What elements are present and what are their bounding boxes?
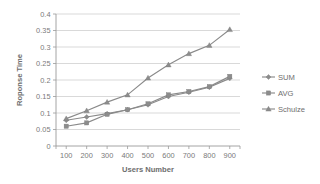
- data-point-marker: [207, 85, 211, 89]
- y-tick-label: 0.15: [36, 92, 50, 101]
- data-point-marker: [105, 112, 109, 116]
- data-point-marker: [166, 93, 170, 97]
- x-axis-tick-labels: 100200300400500600700800900: [60, 151, 236, 160]
- x-axis-title: Users Number: [122, 165, 174, 174]
- data-point-marker: [146, 102, 150, 106]
- data-point-marker: [64, 124, 68, 128]
- data-point-marker: [125, 108, 129, 112]
- legend-label: SUM: [278, 73, 295, 82]
- data-point-marker: [228, 74, 232, 78]
- y-tick-label: 0.4: [40, 10, 50, 19]
- x-tick-label: 200: [80, 151, 92, 160]
- x-tick-label: 800: [203, 151, 215, 160]
- line-chart: 00.050.10.150.20.250.30.350.4 1002003004…: [0, 0, 320, 184]
- y-tick-label: 0.35: [36, 26, 50, 35]
- y-tick-label: 0.2: [40, 76, 50, 85]
- data-point-marker: [85, 121, 89, 125]
- data-point-marker: [266, 91, 270, 95]
- y-tick-label: 0.05: [36, 125, 50, 134]
- y-tick-label: 0: [46, 142, 50, 151]
- x-tick-label: 900: [224, 151, 236, 160]
- x-tick-label: 300: [101, 151, 113, 160]
- data-point-marker: [187, 89, 191, 93]
- x-tick-label: 600: [162, 151, 174, 160]
- chart-container: 00.050.10.150.20.250.30.350.4 1002003004…: [0, 0, 320, 184]
- y-tick-label: 0.25: [36, 59, 50, 68]
- y-tick-label: 0.1: [40, 109, 50, 118]
- y-axis-title: Roponse Time: [15, 54, 24, 106]
- legend-label: Schulze: [278, 105, 305, 114]
- x-tick-label: 100: [60, 151, 72, 160]
- y-tick-label: 0.3: [40, 43, 50, 52]
- x-tick-label: 400: [121, 151, 133, 160]
- x-tick-label: 500: [142, 151, 154, 160]
- x-tick-label: 700: [183, 151, 195, 160]
- legend-label: AVG: [278, 89, 294, 98]
